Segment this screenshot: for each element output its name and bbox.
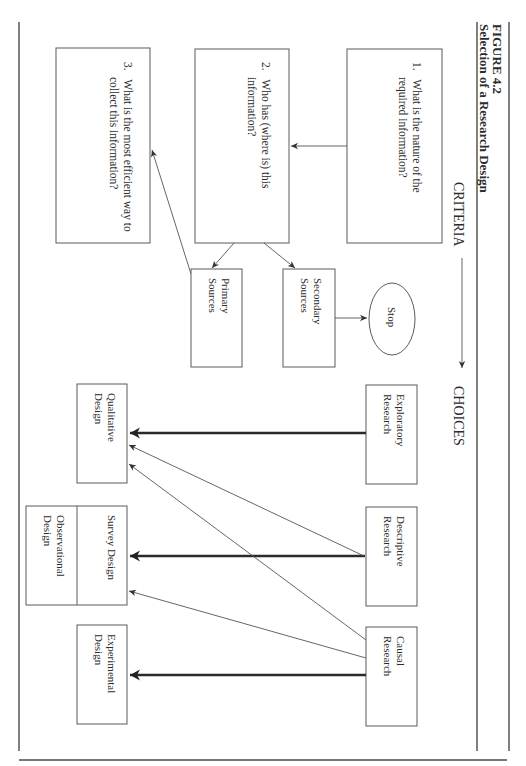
descriptive-line1: Descriptive xyxy=(395,516,407,567)
criterion-2-to-primary-arrow xyxy=(212,243,234,268)
exploratory-research-box: Exploratory Research xyxy=(366,385,417,484)
descriptive-to-qualitative-arrow xyxy=(129,445,364,556)
experimental-line2: Design xyxy=(93,634,105,666)
observational-line2: Design xyxy=(42,515,54,547)
secondary-sources-line2: Sources xyxy=(299,278,311,313)
svg-text:1. What is the nature of: 1. What is the nature of the xyxy=(411,62,423,193)
qualitative-design-box: Qualitative Design xyxy=(77,384,127,483)
criterion-2-number: 2. xyxy=(260,62,272,71)
exploratory-line2: Research xyxy=(382,394,394,435)
criterion-3-line2: collect this information? xyxy=(108,77,120,189)
criterion-3-line1: What is the most efficient way to xyxy=(121,79,134,232)
descriptive-line2: Research xyxy=(382,516,394,557)
primary-sources-line1: Primary xyxy=(220,278,232,314)
criterion-2-to-secondary-arrow xyxy=(264,243,295,268)
criterion-1-number: 1. xyxy=(411,62,423,71)
criterion-3-number: 3. xyxy=(122,62,134,71)
causal-line2: Research xyxy=(382,636,394,677)
criterion-1-box: 1. What is the nature of the required in… xyxy=(347,49,442,243)
criterion-2-line2: information? xyxy=(246,77,258,136)
primary-to-criterion-3-arrow xyxy=(152,150,191,274)
observational-line1: Observational xyxy=(55,515,67,577)
survey-design-label: Survey Design xyxy=(106,515,118,581)
causal-research-box: Causal Research xyxy=(366,627,417,726)
svg-text:3. What is the most effi: 3. What is the most efficient way to xyxy=(121,62,134,232)
experimental-design-box: Experimental Design xyxy=(77,625,127,724)
survey-observational-box: Survey Design Observational Design xyxy=(26,506,127,605)
choices-heading: CHOICES xyxy=(451,386,466,446)
criterion-2-box: 2. Who has (where is) this information? xyxy=(195,49,289,243)
secondary-sources-box: Secondary Sources xyxy=(283,269,335,367)
secondary-sources-line1: Secondary xyxy=(312,278,324,325)
stop-label: Stop xyxy=(386,307,398,328)
criterion-3-box: 3. What is the most efficient way to col… xyxy=(56,48,150,243)
causal-line1: Causal xyxy=(395,636,407,666)
qualitative-line2: Design xyxy=(93,393,105,425)
svg-text:2. Who has (where is) th: 2. Who has (where is) this xyxy=(259,62,272,189)
primary-sources-line2: Sources xyxy=(207,278,219,313)
exploratory-line1: Exploratory xyxy=(395,394,407,447)
criterion-1-line2: required information? xyxy=(396,77,409,178)
experimental-line1: Experimental xyxy=(106,634,118,693)
criteria-heading: CRITERIA xyxy=(451,182,466,247)
stop-node: Stop xyxy=(369,283,415,355)
descriptive-research-box: Descriptive Research xyxy=(366,507,417,606)
qualitative-line1: Qualitative xyxy=(106,393,118,442)
figure-header: FIGURE 4.2 Selection of a Research Desig… xyxy=(477,24,505,194)
criterion-2-line1: Who has (where is) this xyxy=(259,79,272,189)
research-design-diagram: FIGURE 4.2 Selection of a Research Desig… xyxy=(0,0,526,766)
figure-title: Selection of a Research Design xyxy=(477,24,492,194)
causal-to-qualitative-arrow xyxy=(129,464,366,640)
criterion-1-line1: What is the nature of the xyxy=(411,79,423,192)
causal-to-survey-arrow xyxy=(129,591,366,658)
primary-sources-box: Primary Sources xyxy=(191,269,242,367)
